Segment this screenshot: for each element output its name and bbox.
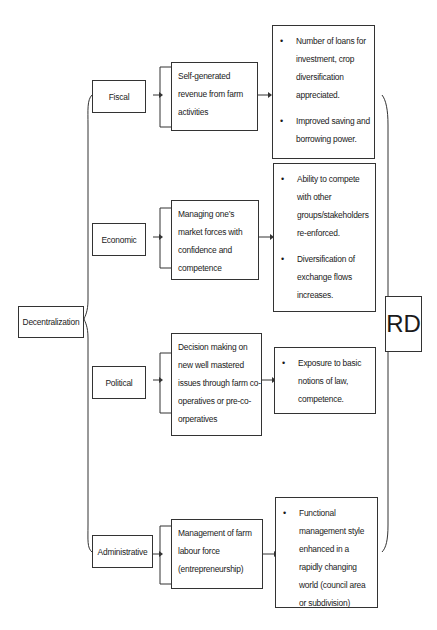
description-text: Management of farm labour force (entrepr… xyxy=(178,528,252,574)
outcomes-economic: Ability to compete with other groups/sta… xyxy=(273,163,376,312)
description-economic: Managing one’s market forces with confid… xyxy=(171,200,259,280)
outcome-item: Ability to compete with other groups/sta… xyxy=(280,170,371,242)
description-political: Decision making on new well mastered iss… xyxy=(171,333,262,436)
category-label: Fiscal xyxy=(109,88,130,106)
category-label: Administrative xyxy=(98,543,148,561)
description-administrative: Management of farm labour force (entrepr… xyxy=(171,519,263,589)
description-text: Decision making on new well mastered iss… xyxy=(178,342,261,424)
target-node-rd: RD xyxy=(385,296,422,352)
description-text: Managing one’s market forces with confid… xyxy=(178,209,242,273)
outcome-item: Exposure to basic notions of law, compet… xyxy=(281,354,371,408)
outcome-list: Ability to compete with other groups/sta… xyxy=(280,170,371,304)
outcome-item: Diversification of exchange flows increa… xyxy=(280,250,371,304)
category-administrative: Administrative xyxy=(92,535,153,568)
root-label: Decentralization xyxy=(23,313,80,331)
category-label: Economic xyxy=(101,231,136,249)
description-text: Self-generated revenue from farm activit… xyxy=(178,71,243,117)
outcome-list: Functional management style enhanced in … xyxy=(282,504,373,612)
category-label: Political xyxy=(105,374,132,392)
category-political: Political xyxy=(92,366,146,399)
outcome-item: Number of loans for investment, crop div… xyxy=(279,32,370,104)
outcome-list: Number of loans for investment, crop div… xyxy=(279,32,370,148)
target-label: RD xyxy=(386,310,421,338)
outcome-item: Improved saving and borrowing power. xyxy=(279,112,370,148)
outcomes-political: Exposure to basic notions of law, compet… xyxy=(274,347,376,414)
category-fiscal: Fiscal xyxy=(92,80,146,113)
outcomes-administrative: Functional management style enhanced in … xyxy=(275,497,378,608)
outcomes-fiscal: Number of loans for investment, crop div… xyxy=(272,25,375,159)
outcome-list: Exposure to basic notions of law, compet… xyxy=(281,354,371,408)
root-node-decentralization: Decentralization xyxy=(18,306,84,338)
category-economic: Economic xyxy=(92,223,146,256)
description-fiscal: Self-generated revenue from farm activit… xyxy=(171,62,258,131)
outcome-item: Functional management style enhanced in … xyxy=(282,504,373,612)
